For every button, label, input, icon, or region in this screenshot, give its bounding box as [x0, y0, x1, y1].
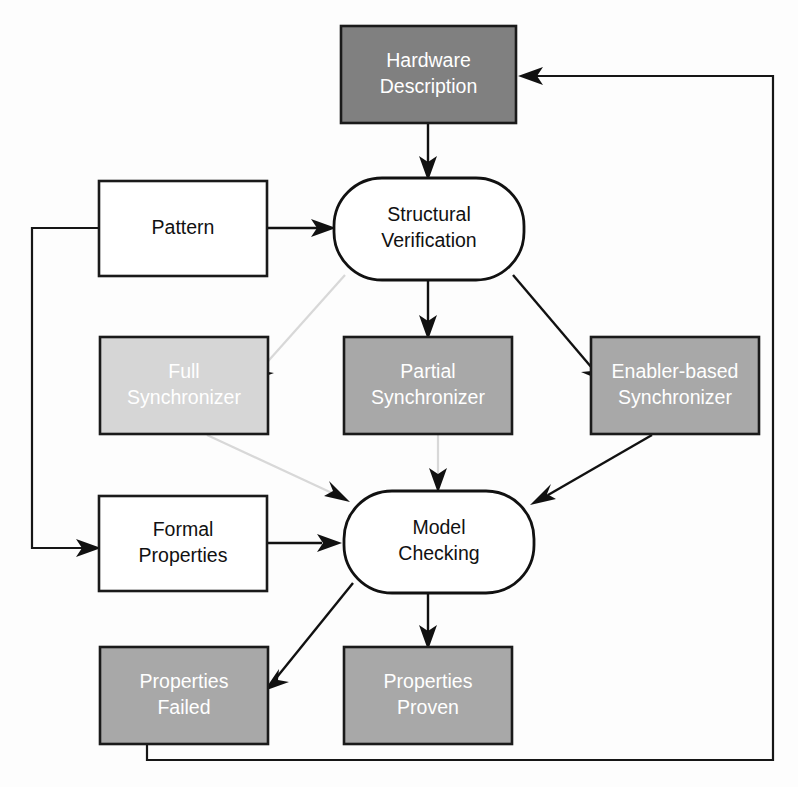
- node-formal-properties[interactable]: Formal Properties: [99, 496, 267, 591]
- node-full-synchronizer[interactable]: Full Synchronizer: [100, 337, 268, 434]
- edge-model-checking-to-properties-failed: [264, 583, 353, 691]
- flowchart-canvas: Hardware Description Pattern Structural …: [0, 0, 798, 787]
- node-enabler-based-synchronizer-line1: Enabler-based: [612, 360, 739, 382]
- edge-formal-properties-to-model-checking: [267, 534, 342, 552]
- node-properties-failed-line2: Failed: [157, 696, 210, 718]
- node-formal-properties-line1: Formal: [153, 518, 214, 540]
- node-pattern[interactable]: Pattern: [99, 181, 267, 276]
- node-full-synchronizer-line1: Full: [168, 360, 199, 382]
- node-hardware-description-line2: Description: [380, 75, 478, 97]
- node-enabler-based-synchronizer[interactable]: Enabler-based Synchronizer: [591, 337, 759, 434]
- flowchart-svg: Hardware Description Pattern Structural …: [0, 0, 798, 787]
- node-model-checking-line2: Checking: [398, 542, 479, 564]
- node-pattern-line1: Pattern: [152, 216, 215, 238]
- node-properties-proven-line1: Properties: [384, 670, 473, 692]
- edge-pattern-to-formal-properties-feedback: [32, 228, 101, 557]
- node-model-checking[interactable]: Model Checking: [344, 491, 534, 593]
- node-hardware-description-line1: Hardware: [386, 49, 471, 71]
- node-formal-properties-line2: Properties: [139, 544, 228, 566]
- node-properties-proven[interactable]: Properties Proven: [344, 647, 512, 744]
- edge-enabler-synchronizer-to-model-checking: [530, 435, 652, 505]
- node-model-checking-line1: Model: [412, 516, 465, 538]
- node-hardware-description[interactable]: Hardware Description: [341, 26, 516, 123]
- edge-model-checking-to-properties-proven: [419, 593, 437, 650]
- node-partial-synchronizer-line1: Partial: [400, 360, 455, 382]
- node-partial-synchronizer-line2: Synchronizer: [371, 386, 485, 408]
- node-properties-proven-line2: Proven: [397, 696, 459, 718]
- node-full-synchronizer-line2: Synchronizer: [127, 386, 241, 408]
- edge-structural-verification-to-partial-synchronizer: [419, 280, 437, 340]
- edge-partial-synchronizer-to-model-checking: [429, 434, 447, 493]
- node-structural-verification-line2: Verification: [381, 229, 476, 251]
- node-structural-verification-line1: Structural: [387, 203, 470, 225]
- node-properties-failed[interactable]: Properties Failed: [100, 647, 268, 744]
- edge-full-synchronizer-to-model-checking: [207, 435, 350, 502]
- node-structural-verification[interactable]: Structural Verification: [334, 178, 524, 280]
- edge-hardware-to-structural-verification: [419, 123, 437, 181]
- node-properties-failed-line1: Properties: [140, 670, 229, 692]
- node-enabler-based-synchronizer-line2: Synchronizer: [618, 386, 732, 408]
- node-partial-synchronizer[interactable]: Partial Synchronizer: [344, 337, 512, 434]
- edge-pattern-to-structural-verification: [267, 219, 336, 237]
